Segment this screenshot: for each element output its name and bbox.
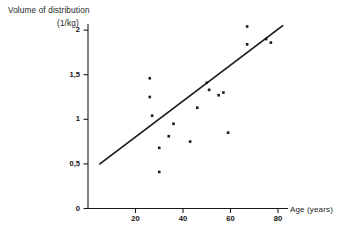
data-point-16: [265, 38, 268, 41]
data-point-1: [148, 96, 151, 99]
data-point-3: [158, 147, 161, 150]
chart-figure: Volume of distribution (1/kg) Age (years…: [0, 0, 345, 235]
regression-line-group: [100, 26, 283, 164]
y-axis-ticks: [84, 30, 89, 208]
data-point-5: [172, 122, 175, 125]
axis-lines: [88, 24, 288, 209]
data-point-14: [246, 25, 249, 28]
x-axis-ticks: [136, 209, 279, 214]
y-tick-label-1: 0,5: [48, 159, 80, 168]
y-tick-label-2: 1: [48, 114, 80, 123]
x-tick-label-1: 40: [168, 214, 198, 223]
y-axis-title: Volume of distribution: [8, 6, 90, 15]
x-tick-label-2: 60: [216, 214, 246, 223]
data-point-2: [151, 114, 154, 117]
data-point-9: [208, 89, 211, 92]
data-point-8: [205, 81, 208, 84]
x-tick-label-3: 80: [263, 214, 293, 223]
data-point-0: [148, 77, 151, 80]
data-point-10: [217, 94, 220, 97]
regression-line: [100, 26, 283, 164]
y-tick-label-3: 1,5: [48, 70, 80, 79]
y-tick-label-0: 0: [48, 204, 80, 213]
y-tick-label-4: 2: [48, 25, 80, 34]
data-point-6: [167, 135, 170, 138]
data-point-15: [246, 43, 249, 46]
data-point-13: [227, 131, 230, 134]
data-point-7: [189, 140, 192, 143]
data-point-17: [270, 41, 273, 44]
data-point-12: [196, 106, 199, 109]
data-point-4: [158, 171, 161, 174]
x-axis-title: Age (years): [290, 205, 333, 214]
data-point-11: [222, 91, 225, 94]
x-tick-label-0: 20: [121, 214, 151, 223]
